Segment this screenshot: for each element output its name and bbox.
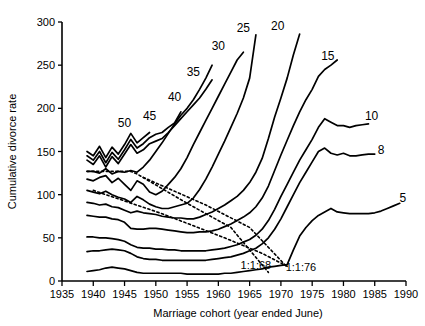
series-label-8: 8 bbox=[378, 143, 385, 157]
y-tick-label: 0 bbox=[49, 275, 55, 287]
series-line-15 bbox=[87, 60, 337, 233]
x-tick-label: 1935 bbox=[50, 288, 74, 300]
y-tick-label: 300 bbox=[37, 16, 55, 28]
x-tick-label: 1990 bbox=[394, 288, 418, 300]
series-label-50: 50 bbox=[118, 116, 132, 130]
series-label-5: 5 bbox=[400, 191, 407, 205]
x-tick-label: 1960 bbox=[206, 288, 230, 300]
x-tick-label: 1985 bbox=[362, 288, 386, 300]
cohort-1968-diagonal bbox=[87, 171, 268, 272]
x-tick-label: 1965 bbox=[237, 288, 261, 300]
y-tick-label: 100 bbox=[37, 189, 55, 201]
x-tick-label: 1950 bbox=[144, 288, 168, 300]
x-axis-title: Marriage cohort (year ended June) bbox=[153, 307, 322, 319]
divorce-rate-chart: 0501001502002503001935194019451950195519… bbox=[0, 0, 425, 326]
annotation-1-1-76: 1:1:76 bbox=[286, 261, 317, 273]
series-line-10 bbox=[87, 119, 368, 251]
y-tick-label: 50 bbox=[43, 232, 55, 244]
series-label-35: 35 bbox=[187, 65, 201, 79]
x-tick-label: 1970 bbox=[269, 288, 293, 300]
x-tick-label: 1980 bbox=[331, 288, 355, 300]
x-tick-label: 1955 bbox=[175, 288, 199, 300]
x-tick-label: 1945 bbox=[112, 288, 136, 300]
x-tick-label: 1940 bbox=[81, 288, 105, 300]
y-axis-title: Cumulative divorce rate bbox=[6, 94, 18, 210]
series-label-45: 45 bbox=[143, 109, 157, 123]
annotation-1-1-68: 1:1:68 bbox=[241, 259, 272, 271]
series-label-30: 30 bbox=[212, 39, 226, 53]
series-label-20: 20 bbox=[271, 19, 285, 33]
y-tick-label: 200 bbox=[37, 102, 55, 114]
y-tick-label: 250 bbox=[37, 59, 55, 71]
series-label-25: 25 bbox=[237, 21, 251, 35]
y-tick-label: 150 bbox=[37, 146, 55, 158]
series-label-10: 10 bbox=[365, 109, 379, 123]
chart-svg: 0501001502002503001935194019451950195519… bbox=[0, 0, 425, 326]
series-line-40 bbox=[87, 80, 212, 167]
series-label-40: 40 bbox=[168, 90, 182, 104]
x-tick-label: 1975 bbox=[300, 288, 324, 300]
series-label-15: 15 bbox=[321, 49, 335, 63]
